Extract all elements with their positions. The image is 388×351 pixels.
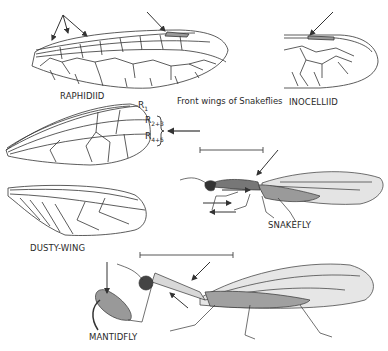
dusty-wing-label: DUSTY-WING: [30, 243, 85, 253]
snakefly-label: SNAKEFLY: [268, 220, 311, 230]
vein-label-r1: R1: [138, 100, 148, 112]
vein-label-r45: R4+5: [145, 131, 164, 143]
r-vein-wing: [6, 104, 150, 165]
vein-sub: 1: [144, 105, 148, 112]
vein-label-r23: R2+3: [145, 115, 164, 127]
snakefly-insect: [180, 172, 383, 222]
insect-wing-plate: RAPHIDIID Front wings of Snakeflies INOC…: [0, 0, 388, 351]
inocelliid-label: INOCELLIID: [289, 97, 338, 107]
raphidiid-wing: [32, 30, 228, 88]
inocelliid-arrow: [310, 12, 333, 35]
scale-bars: [140, 147, 263, 258]
inocelliid-wing: [284, 35, 378, 88]
raphidiid-label: RAPHIDIID: [60, 91, 104, 101]
figure-caption: Front wings of Snakeflies: [177, 96, 283, 106]
mantidfly-label: MANTIDFLY: [89, 332, 137, 342]
mantidfly-insect: [93, 264, 374, 339]
vein-sub: 2+3: [151, 120, 164, 127]
dusty-wing: [8, 185, 146, 235]
vein-sub: 4+5: [151, 136, 164, 143]
illustration-canvas: [0, 0, 388, 351]
